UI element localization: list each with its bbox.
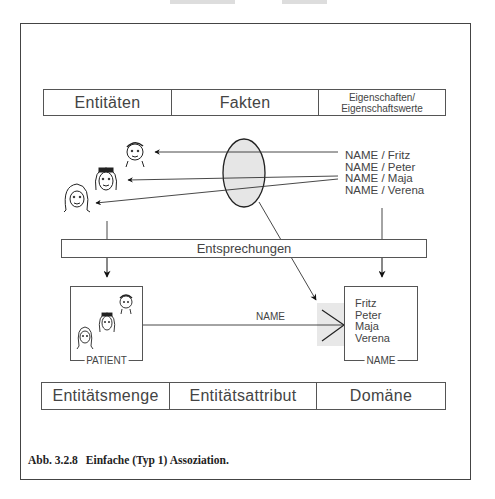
face-peter-icon (95, 168, 116, 190)
face-fritz-icon (126, 143, 144, 167)
cell-entitaetsattribut: Entitätsattribut (170, 383, 317, 409)
fact-ellipse (223, 139, 265, 207)
face-maja-icon (64, 184, 90, 212)
attribute-edge-label: NAME (256, 311, 285, 322)
caption-text: Einfache (Typ 1) Assoziation. (86, 454, 229, 466)
facts-list: NAME / Fritz NAME / Peter NAME / Maja NA… (345, 150, 424, 196)
caption-number: Abb. 3.2.8 (28, 454, 78, 466)
mapping-bar: Entsprechungen (61, 239, 427, 258)
term-table: Entitätsmenge Entitätsattribut Domäne (41, 382, 446, 410)
entity-set-label: PATIENT (84, 355, 129, 366)
domain-value: Fritz (355, 298, 390, 310)
domain-label: NAME (365, 355, 398, 366)
arrow-verena (96, 179, 338, 203)
cell-domaene: Domäne (317, 383, 445, 409)
domain-value: Maja (355, 321, 390, 333)
domain-values: Fritz Peter Maja Verena (355, 298, 390, 344)
fact-item: NAME / Fritz (345, 150, 424, 162)
domain-value: Verena (355, 333, 390, 345)
fact-item: NAME / Maja (345, 173, 424, 185)
cell-entitaetsmenge: Entitätsmenge (42, 383, 170, 409)
entity-set-box: PATIENT (70, 286, 143, 361)
domain-box: Fritz Peter Maja Verena NAME (344, 286, 418, 361)
figure-caption: Abb. 3.2.8Einfache (Typ 1) Assoziation. (28, 454, 229, 466)
fact-item: NAME / Verena (345, 185, 424, 197)
